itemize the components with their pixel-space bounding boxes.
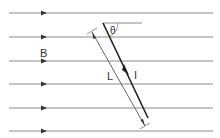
dimension-tick-top (87, 28, 97, 34)
arrow-right-icon (41, 11, 47, 16)
arrow-right-icon (41, 129, 47, 134)
arrow-right-icon (41, 59, 47, 64)
arrow-right-icon (41, 82, 47, 87)
arrow-right-icon (41, 106, 47, 111)
arrow-right-icon (41, 35, 47, 40)
field-arrowheads (41, 11, 47, 134)
length-label: L (107, 70, 113, 82)
dimension-arrow-down-icon (141, 119, 146, 126)
dimension-arrow-up-icon (92, 32, 96, 39)
angle-label: θ (110, 25, 116, 36)
magnetic-field-diagram: B L I θ (0, 0, 220, 138)
current-label: I (134, 69, 137, 81)
field-label: B (40, 47, 47, 59)
dimension-tick-bottom (140, 123, 150, 129)
